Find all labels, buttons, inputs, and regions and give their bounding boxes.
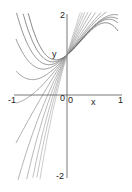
curve-line — [16, 13, 101, 104]
plot-area — [0, 0, 132, 192]
x-tick-right: 1 — [118, 96, 123, 105]
y-axis-label: y — [52, 50, 57, 59]
y-tick-bottom: -2 — [56, 172, 64, 181]
origin-y-label: 0 — [60, 94, 65, 103]
curve-line — [23, 14, 118, 62]
x-tick-left: -1 — [8, 96, 16, 105]
origin-x-label: 0 — [68, 96, 73, 105]
x-axis-label: x — [91, 98, 96, 107]
y-tick-top: 2 — [60, 11, 65, 20]
